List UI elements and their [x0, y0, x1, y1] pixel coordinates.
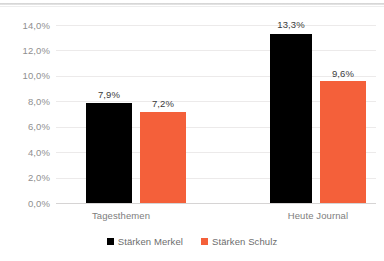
y-tick-label-8: 8,0%	[2, 96, 50, 107]
top-edge-rule	[0, 3, 384, 5]
y-tick-label-10: 10,0%	[2, 70, 50, 81]
bar-tagesthemen-schulz[interactable]	[140, 112, 186, 204]
value-label-heute-journal-merkel: 13,3%	[261, 19, 321, 30]
legend-item-merkel[interactable]: Stärken Merkel	[107, 236, 183, 247]
y-tick-label-14: 14,0%	[2, 20, 50, 31]
legend-label-schulz: Stärken Schulz	[212, 236, 277, 247]
value-label-tagesthemen-schulz: 7,2%	[133, 98, 193, 109]
category-label-tagesthemen: Tagesthemen	[56, 210, 186, 221]
category-label-heute-journal: Heute Journal	[253, 210, 383, 221]
chart-canvas: 14,0% 12,0% 10,0% 8,0% 6,0% 4,0% 2,0% 0,…	[0, 0, 384, 261]
y-tick-label-12: 12,0%	[2, 45, 50, 56]
legend-swatch-merkel-icon	[107, 238, 114, 245]
chart-legend: Stärken Merkel Stärken Schulz	[0, 236, 384, 247]
legend-label-merkel: Stärken Merkel	[118, 236, 183, 247]
gridline-14	[56, 25, 376, 26]
value-label-heute-journal-schulz: 9,6%	[313, 68, 373, 79]
y-tick-label-6: 6,0%	[2, 121, 50, 132]
y-tick-label-0: 0,0%	[2, 198, 50, 209]
bar-tagesthemen-merkel[interactable]	[86, 103, 132, 203]
y-tick-label-2: 2,0%	[2, 172, 50, 183]
bar-heute-journal-schulz[interactable]	[320, 81, 366, 203]
top-edge-rule-secondary	[0, 6, 384, 7]
legend-swatch-schulz-icon	[201, 238, 208, 245]
gridline-12	[56, 50, 376, 51]
plot-area	[56, 25, 376, 203]
x-axis-baseline	[56, 203, 376, 204]
y-tick-label-4: 4,0%	[2, 147, 50, 158]
legend-item-schulz[interactable]: Stärken Schulz	[201, 236, 277, 247]
bar-heute-journal-merkel[interactable]	[270, 34, 312, 203]
value-label-tagesthemen-merkel: 7,9%	[79, 89, 139, 100]
